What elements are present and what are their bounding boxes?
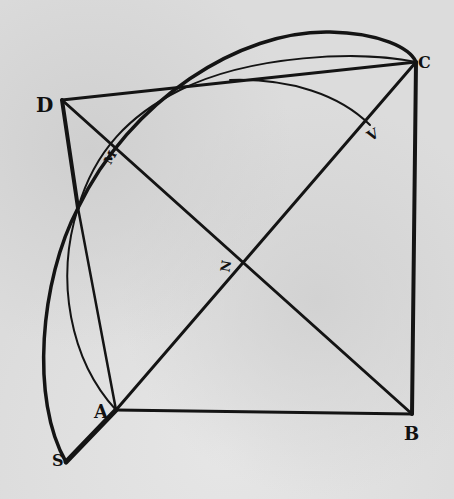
- label-a: A: [93, 401, 109, 422]
- side-cb: [412, 62, 416, 414]
- diagonal-ac: [116, 62, 416, 410]
- side-ab: [116, 410, 412, 414]
- line-left-a: [78, 208, 116, 410]
- side-dc: [62, 62, 416, 100]
- inner-arc-lower: [67, 208, 116, 410]
- label-s: S: [52, 451, 64, 470]
- label-b: B: [404, 423, 419, 444]
- label-c: C: [418, 53, 431, 72]
- arc-right: [230, 80, 370, 125]
- geometry-figure: D C M V N A B S: [0, 0, 454, 499]
- line-a-s: [66, 410, 116, 462]
- scanned-page: D C M V N A B S: [0, 0, 454, 499]
- side-d-left: [62, 100, 78, 208]
- label-n: N: [217, 259, 234, 273]
- label-v: V: [363, 124, 382, 144]
- label-d: D: [36, 93, 53, 117]
